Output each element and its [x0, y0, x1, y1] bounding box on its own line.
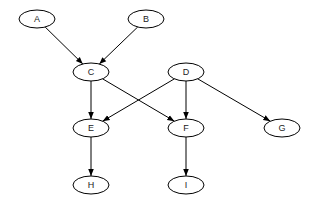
nodes-layer: ABCDEFGHI	[19, 10, 300, 194]
edge-b-to-c	[99, 27, 137, 64]
node-label: E	[88, 123, 94, 133]
node-a[interactable]: A	[19, 10, 55, 28]
node-b[interactable]: B	[128, 10, 164, 28]
node-g[interactable]: G	[264, 119, 300, 137]
node-label: A	[34, 14, 40, 24]
node-label: G	[278, 123, 285, 133]
node-label: H	[88, 180, 95, 190]
edges-layer	[45, 27, 270, 176]
node-label: C	[88, 67, 95, 77]
edge-d-to-g	[198, 79, 271, 121]
graph-canvas: ABCDEFGHI	[0, 0, 316, 208]
node-e[interactable]: E	[73, 119, 109, 137]
node-label: B	[143, 14, 149, 24]
node-label: F	[183, 123, 189, 133]
node-f[interactable]: F	[168, 119, 204, 137]
node-label: D	[183, 67, 190, 77]
node-h[interactable]: H	[73, 176, 109, 194]
node-c[interactable]: C	[73, 63, 109, 81]
node-d[interactable]: D	[168, 63, 204, 81]
edge-a-to-c	[45, 27, 83, 64]
node-label: I	[185, 180, 188, 190]
node-i[interactable]: I	[168, 176, 204, 194]
